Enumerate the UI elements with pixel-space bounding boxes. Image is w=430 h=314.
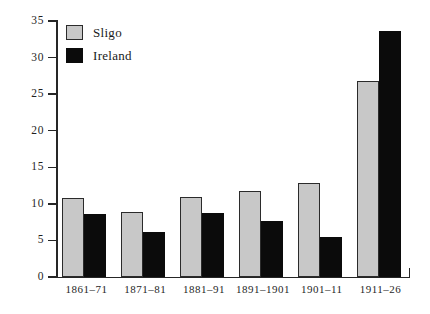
x-axis-label-2: 1871–81 (116, 284, 175, 295)
bar-sligo-2 (121, 212, 143, 277)
plot-area (57, 21, 410, 277)
bar-sligo-4 (239, 191, 261, 277)
bar-sligo-1 (62, 198, 84, 277)
bar-ireland-5 (320, 237, 342, 277)
y-tick-label-15: 15 (31, 161, 44, 173)
y-tick-20 (48, 130, 56, 131)
bar-ireland-4 (261, 221, 283, 277)
bar-group-5 (298, 21, 342, 277)
y-tick-0 (48, 276, 56, 277)
y-tick-label-35: 35 (31, 15, 44, 27)
y-tick-5 (48, 240, 56, 241)
bar-group-6 (357, 21, 401, 277)
y-tick-label-25: 25 (31, 88, 44, 100)
bar-group-2 (121, 21, 165, 277)
x-axis-label-4: 1891–1901 (234, 284, 293, 295)
bar-sligo-6 (357, 81, 379, 277)
y-tick-30 (48, 57, 56, 58)
y-tick-35 (48, 20, 56, 21)
bar-ireland-3 (202, 213, 224, 277)
bar-sligo-5 (298, 183, 320, 277)
y-tick-label-30: 30 (31, 52, 44, 64)
x-axis-label-3: 1881–91 (175, 284, 234, 295)
bar-chart: Sligo Ireland 05101520253035 1861–711871… (0, 0, 430, 314)
x-axis-label-6: 1911–26 (351, 284, 410, 295)
bar-sligo-3 (180, 197, 202, 277)
y-tick-label-0: 0 (38, 271, 44, 283)
y-tick-25 (48, 93, 56, 94)
x-axis-label-1: 1861–71 (57, 284, 116, 295)
bar-group-1 (62, 21, 106, 277)
y-tick-label-10: 10 (31, 198, 44, 210)
bar-ireland-2 (143, 232, 165, 277)
y-tick-label-20: 20 (31, 125, 44, 137)
y-tick-15 (48, 167, 56, 168)
bar-group-4 (239, 21, 283, 277)
y-tick-label-5: 5 (38, 234, 44, 246)
x-axis-label-5: 1901–11 (292, 284, 351, 295)
bar-ireland-6 (379, 31, 401, 277)
bar-group-3 (180, 21, 224, 277)
bar-ireland-1 (84, 214, 106, 277)
y-tick-10 (48, 203, 56, 204)
